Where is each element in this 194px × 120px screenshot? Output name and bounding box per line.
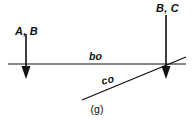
label-left-vector: A, B <box>15 26 38 37</box>
label-horizontal-line: bo <box>89 51 102 62</box>
figure-caption: (g) <box>0 103 194 115</box>
label-right-vector: B, C <box>156 3 179 14</box>
